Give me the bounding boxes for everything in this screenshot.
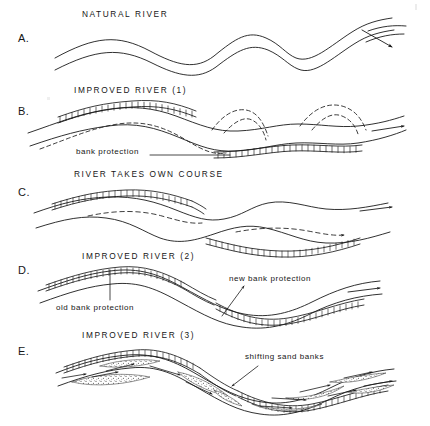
diagram-canvas	[0, 0, 430, 426]
callout-bank-protection: bank protection	[76, 147, 139, 156]
panel-c-bank-protection-upper	[52, 190, 206, 214]
page-speck	[415, 4, 417, 10]
panel-c-bank-protection-lower	[206, 238, 360, 257]
heading-natural-river: NATURAL RIVER	[82, 9, 168, 19]
panel-d-flow-arrow	[348, 288, 380, 292]
panel-b-bank-protection-lower	[214, 145, 362, 158]
panel-d-river	[38, 270, 382, 328]
page-speck	[47, 97, 50, 100]
panel-a-river	[55, 18, 406, 75]
panel-b-flow-arrow	[372, 126, 404, 131]
panel-letter-c: C.	[18, 186, 30, 198]
panel-letter-e: E.	[18, 345, 29, 357]
panel-c-river	[34, 197, 390, 243]
panel-letter-d: D.	[18, 264, 30, 276]
panel-a-flow-arrow	[362, 30, 392, 47]
callout-shifting-sand-banks: shifting sand banks	[245, 352, 324, 361]
panel-e-callout-leader	[232, 366, 258, 386]
heading-river-takes-own-course: RIVER TAKES OWN COURSE	[74, 169, 224, 179]
panel-letter-a: A.	[18, 32, 29, 44]
river-training-figure: A. B. C. D. E. NATURAL RIVER IMPROVED RI…	[0, 0, 430, 426]
panel-b-bank-protection-upper	[58, 100, 196, 123]
panel-d-old-bank-protection	[46, 267, 216, 305]
callout-new-bank-protection: new bank protection	[229, 274, 311, 283]
heading-improved-river-3: IMPROVED RIVER (3)	[82, 330, 195, 340]
callout-old-bank-protection: old bank protection	[56, 303, 134, 312]
heading-improved-river-1: IMPROVED RIVER (1)	[74, 85, 187, 95]
heading-improved-river-2: IMPROVED RIVER (2)	[82, 251, 195, 261]
panel-letter-b: B.	[18, 105, 29, 117]
